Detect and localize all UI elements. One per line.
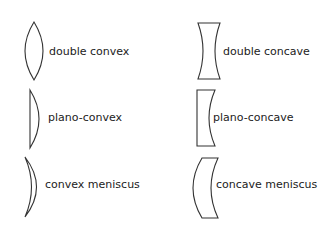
double-concave-label: double concave [223,46,310,58]
plano-convex-label: plano-convex [48,112,122,124]
concave-meniscus-label: concave meniscus [216,179,317,191]
double-convex-lens-icon [22,20,48,82]
plano-concave-label: plano-concave [213,112,293,124]
convex-meniscus-label: convex meniscus [45,179,140,191]
plano-convex-lens-icon [28,88,48,150]
double-convex-label: double convex [49,46,129,58]
double-concave-lens-icon [196,21,222,81]
convex-meniscus-lens-icon [22,155,46,219]
